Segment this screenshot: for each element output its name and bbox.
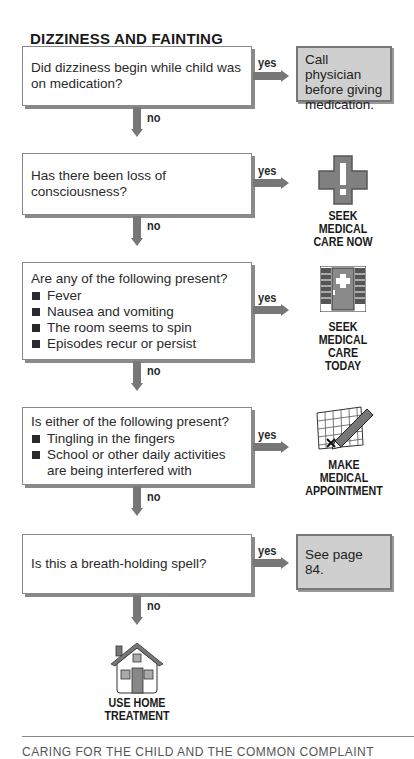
no-arrow-icon [131, 361, 143, 391]
yes-label: yes [258, 290, 276, 305]
question-text: Are any of the following present? [31, 271, 243, 287]
no-arrow-icon [131, 486, 143, 516]
no-label: no [147, 489, 161, 504]
calendar-pencil-icon [313, 405, 377, 453]
result-call-physician: Call physician before giving medication. [296, 46, 392, 102]
list-item: Fever [31, 288, 243, 304]
no-label: no [147, 363, 161, 378]
footer-divider [22, 736, 414, 737]
list-item: School or other daily activities are bei… [31, 447, 243, 479]
question-text: Has there been loss of consciousness? [31, 168, 243, 200]
question-tingling: Is either of the following present? Ting… [22, 407, 252, 485]
symptom-list: Tingling in the fingers School or other … [31, 431, 243, 479]
yes-arrow-icon [253, 70, 289, 82]
question-text: Is either of the following present? [31, 414, 243, 430]
medical-cross-icon [318, 155, 368, 205]
question-medication: Did dizziness begin while child was on m… [22, 46, 252, 106]
caption-appointment: MAKEMEDICALAPPOINTMENT [305, 458, 384, 497]
yes-label: yes [258, 55, 276, 70]
yes-label: yes [258, 163, 276, 178]
no-label: no [147, 218, 161, 233]
question-symptoms: Are any of the following present? Fever … [22, 262, 252, 360]
no-label: no [147, 598, 161, 613]
list-item: Tingling in the fingers [31, 431, 243, 447]
no-label: no [147, 110, 161, 125]
caption-seek-today: SEEKMEDICALCARE TODAY [309, 320, 376, 372]
page-footer: CARING FOR THE CHILD AND THE COMMON COMP… [22, 745, 374, 759]
yes-arrow-icon [253, 557, 289, 569]
yes-arrow-icon [253, 304, 289, 316]
caption-seek-now: SEEKMEDICALCARE NOW [312, 209, 374, 248]
list-item: The room seems to spin [31, 320, 243, 336]
no-arrow-icon [131, 216, 143, 246]
question-text: Did dizziness begin while child was on m… [31, 60, 243, 92]
yes-label: yes [258, 427, 276, 442]
no-arrow-icon [131, 595, 143, 625]
yes-arrow-icon [253, 441, 289, 453]
caption-home-treatment: USE HOMETREATMENT [103, 696, 172, 722]
page-title: DIZZINESS AND FAINTING [30, 30, 223, 47]
list-item: Nausea and vomiting [31, 304, 243, 320]
question-text: Is this a breath-holding spell? [31, 556, 243, 572]
result-see-page: See page 84. [296, 534, 392, 590]
house-icon [110, 642, 164, 694]
question-consciousness: Has there been loss of consciousness? [22, 153, 252, 215]
question-breath-holding: Is this a breath-holding spell? [22, 534, 252, 594]
no-arrow-icon [131, 107, 143, 137]
yes-arrow-icon [253, 177, 289, 189]
list-item: Episodes recur or persist [31, 336, 243, 352]
yes-label: yes [258, 543, 276, 558]
hospital-door-icon [320, 266, 366, 312]
symptom-list: Fever Nausea and vomiting The room seems… [31, 288, 243, 352]
